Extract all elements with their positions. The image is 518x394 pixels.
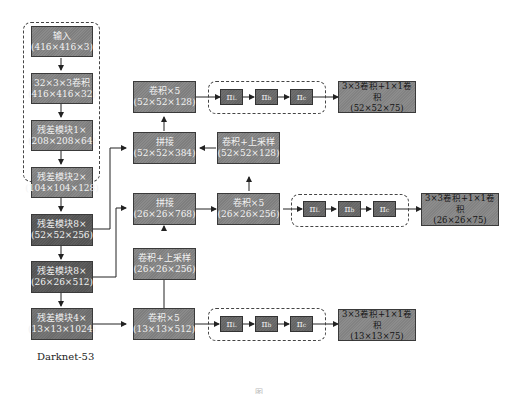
pi-subscript: b xyxy=(351,206,355,213)
block-shape: (416×416×3) xyxy=(31,42,93,53)
pi-subscript: c xyxy=(303,94,306,101)
pi-subscript: c xyxy=(303,321,306,328)
pi-subscript: b xyxy=(268,321,272,328)
block-shape: (13×13×1024) xyxy=(28,324,96,335)
pi-module-26-L: πL xyxy=(303,201,326,217)
head-title: 3×3卷积+1×1卷积 xyxy=(339,309,415,331)
conv5-52: 卷积×5 (52×52×128) xyxy=(133,81,196,113)
head-title: 3×3卷积+1×1卷积 xyxy=(422,193,498,215)
block-title: 卷积×5 xyxy=(148,313,179,324)
backbone-block-conv: 32×3×3卷积 (416×416×32) xyxy=(31,73,93,104)
pi-subscript: L xyxy=(232,321,236,328)
backbone-block-res2: 残差模块2× (104×104×128) xyxy=(31,167,93,198)
pi-subscript: c xyxy=(386,206,389,213)
block-shape: (26×26×768) xyxy=(133,209,195,220)
pi-subscript: L xyxy=(232,94,236,101)
block-shape: (52×52×128) xyxy=(133,97,195,108)
pi-module-26-c: πc xyxy=(373,201,396,217)
conv-upsample-52: 卷积+上采样 (52×52×128) xyxy=(217,132,280,164)
head-shape: (13×13×75) xyxy=(350,331,403,342)
pi-module-13-b: πb xyxy=(255,316,278,332)
block-title: 卷积+上采样 xyxy=(138,253,191,264)
block-title: 拼接 xyxy=(156,137,174,148)
block-title: 卷积×5 xyxy=(149,86,180,97)
block-title: 32×3×3卷积 xyxy=(34,78,90,89)
conv-upsample-26: 卷积+上采样 (26×26×256) xyxy=(133,248,196,280)
pi-module-52-c: πc xyxy=(290,89,313,105)
head-26: 3×3卷积+1×1卷积 (26×26×75) xyxy=(421,193,499,226)
concat-52: 拼接 (52×52×384) xyxy=(133,132,196,164)
head-13: 3×3卷积+1×1卷积 (13×13×75) xyxy=(338,309,416,341)
backbone-block-input: 输入 (416×416×3) xyxy=(31,26,93,57)
block-shape: (13×13×512) xyxy=(133,324,195,335)
block-title: 残差模块4× xyxy=(37,313,86,324)
figure-caption: 图 xyxy=(0,386,518,394)
head-52: 3×3卷积+1×1卷积 (52×52×75) xyxy=(338,81,416,113)
pi-module-13-c: πc xyxy=(290,316,313,332)
block-title: 拼接 xyxy=(156,198,174,209)
block-shape: (26×26×512) xyxy=(31,277,93,288)
block-shape: (208×208×64) xyxy=(28,136,96,147)
pi-module-13-L: πL xyxy=(220,316,243,332)
block-shape: (26×26×256) xyxy=(133,264,195,275)
block-shape: (104×104×128) xyxy=(25,183,99,194)
block-title: 残差模块1× xyxy=(37,125,86,136)
conv5-26: 卷积×5 (26×26×256) xyxy=(217,193,280,225)
backbone-block-res8-a: 残差模块8× (52×52×256) xyxy=(31,214,93,246)
block-title: 残差模块8× xyxy=(37,266,86,277)
block-title: 输入 xyxy=(53,31,71,42)
block-title: 残差模块2× xyxy=(37,172,86,183)
pi-subscript: L xyxy=(315,206,319,213)
backbone-block-res4: 残差模块4× (13×13×1024) xyxy=(31,308,93,340)
block-shape: (26×26×256) xyxy=(217,209,279,220)
head-shape: (52×52×75) xyxy=(350,103,403,114)
block-title: 残差模块8× xyxy=(37,219,86,230)
conv5-13: 卷积×5 (13×13×512) xyxy=(133,308,195,340)
pi-module-52-L: πL xyxy=(220,89,243,105)
block-shape: (416×416×32) xyxy=(28,89,96,100)
concat-26: 拼接 (26×26×768) xyxy=(133,193,196,225)
block-title: 卷积×5 xyxy=(233,198,264,209)
head-title: 3×3卷积+1×1卷积 xyxy=(339,81,415,103)
pi-module-26-b: πb xyxy=(338,201,361,217)
block-shape: (52×52×384) xyxy=(133,148,195,159)
backbone-block-res1: 残差模块1× (208×208×64) xyxy=(31,120,93,151)
backbone-label: Darknet-53 xyxy=(37,351,94,362)
backbone-block-res8-b: 残差模块8× (26×26×512) xyxy=(31,261,93,293)
block-title: 卷积+上采样 xyxy=(222,137,275,148)
pi-module-52-b: πb xyxy=(255,89,278,105)
block-shape: (52×52×128) xyxy=(217,148,279,159)
block-shape: (52×52×256) xyxy=(31,230,93,241)
pi-subscript: b xyxy=(268,94,272,101)
head-shape: (26×26×75) xyxy=(433,215,486,226)
